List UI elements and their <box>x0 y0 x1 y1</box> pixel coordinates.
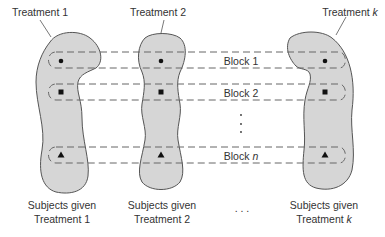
block-2-label: Block 2 <box>224 87 259 99</box>
block-2-square-icon-t2 <box>159 90 164 95</box>
block-1-label: Block 1 <box>224 55 259 67</box>
block-2-band <box>49 84 346 100</box>
treatment-2-leader-line <box>161 20 164 33</box>
block-n-band <box>49 147 346 163</box>
block-1-circle-icon-t1 <box>59 59 64 64</box>
block-1-circle-icon-tk <box>323 59 328 64</box>
block-2-square-icon-t1 <box>59 90 64 95</box>
group-1-caption-line-2: Treatment 1 <box>34 213 90 225</box>
treatment-1-group-shape <box>36 32 101 193</box>
treatment-2-label: Treatment 2 <box>130 6 186 18</box>
treatment-k-label: Treatment k <box>322 6 378 18</box>
treatment-1-label: Treatment 1 <box>12 6 68 18</box>
randomized-block-design-diagram: Block 1 Block 2 Block n Treatment 1 Trea… <box>0 0 385 237</box>
group-k-caption-line-1: Subjects given <box>290 199 358 211</box>
block-2-square-icon-tk <box>323 90 328 95</box>
treatment-k-leader-line <box>336 17 346 35</box>
horizontal-ellipsis: . . . <box>235 202 250 214</box>
vertical-ellipsis-dot <box>240 114 242 116</box>
vertical-ellipsis-dot <box>240 123 242 125</box>
treatment-1-leader-line <box>40 20 51 37</box>
group-k-caption-line-2: Treatment k <box>296 213 352 225</box>
block-n-label: Block n <box>224 150 259 162</box>
group-2-caption-line-2: Treatment 2 <box>134 213 190 225</box>
treatment-k-group-shape <box>288 32 354 189</box>
treatment-2-group-shape <box>138 34 185 190</box>
vertical-ellipsis-dot <box>240 131 242 133</box>
group-2-caption-line-1: Subjects given <box>128 199 196 211</box>
group-1-caption-line-1: Subjects given <box>28 199 96 211</box>
block-1-circle-icon-t2 <box>159 59 164 64</box>
